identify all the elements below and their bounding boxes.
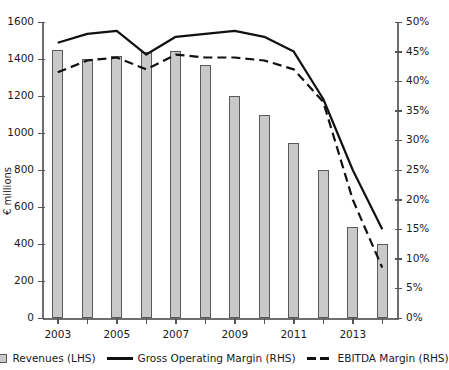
y-axis-right-tick-label: 10%: [406, 252, 429, 264]
revenue-bar: [259, 115, 270, 319]
y-axis-left-tick: [38, 281, 45, 283]
x-axis-tick-label: 2009: [213, 328, 257, 340]
x-axis-tick: [352, 318, 354, 324]
revenue-bar: [318, 170, 329, 318]
y-axis-right-tick-label: 20%: [406, 193, 429, 205]
x-axis-tick: [293, 318, 295, 324]
revenue-bar: [229, 96, 240, 318]
y-axis-right-tick: [395, 140, 402, 142]
y-axis-right-tick: [395, 110, 402, 112]
y-axis-right-tick-label: 50%: [406, 15, 429, 27]
x-axis-tick: [234, 318, 236, 324]
revenue-bar: [111, 56, 122, 318]
y-axis-left-tick-label: 200: [0, 274, 34, 286]
legend-label-gross-operating-margin: Gross Operating Margin (RHS): [138, 352, 296, 364]
y-axis-left-tick: [38, 244, 45, 246]
x-axis-tick: [87, 318, 89, 324]
x-axis-tick: [146, 318, 148, 324]
revenue-bar: [52, 50, 63, 318]
y-axis-left-tick: [38, 207, 45, 209]
legend-item-gross-operating-margin: Gross Operating Margin (RHS): [107, 352, 296, 364]
y-axis-right-tick-label: 15%: [406, 222, 429, 234]
x-axis-tick: [175, 318, 177, 324]
revenue-bar: [200, 65, 211, 318]
y-axis-left-tick: [38, 96, 45, 98]
y-axis-left-tick-label: 1400: [0, 52, 34, 64]
revenue-bar: [82, 59, 93, 318]
y-axis-right-tick: [395, 318, 402, 320]
y-axis-right-tick: [395, 229, 402, 231]
y-axis-left-tick-label: 600: [0, 200, 34, 212]
legend-item-ebitda-margin: EBITDA Margin (RHS): [307, 352, 449, 364]
x-axis-tick: [57, 318, 59, 324]
chart-legend: Revenues (LHS) Gross Operating Margin (R…: [0, 348, 430, 368]
gross-operating-margin-line: [58, 31, 383, 229]
y-axis-right-tick: [395, 258, 402, 260]
revenue-bar: [347, 227, 358, 318]
y-axis-left-tick-label: 1600: [0, 15, 34, 27]
y-axis-left-tick-label: 1000: [0, 126, 34, 138]
y-axis-right-tick-label: 25%: [406, 163, 429, 175]
y-axis-right-tick: [395, 22, 402, 24]
x-axis-tick-label: 2003: [36, 328, 80, 340]
y-axis-left-tick-label: 400: [0, 237, 34, 249]
y-axis-left-tick: [38, 59, 45, 61]
legend-label-ebitda-margin: EBITDA Margin (RHS): [338, 352, 449, 364]
y-axis-right-tick-label: 5%: [406, 281, 423, 293]
y-axis-right-tick-label: 30%: [406, 133, 429, 145]
y-axis-right-tick: [395, 170, 402, 172]
revenue-bar: [141, 52, 152, 318]
x-axis-tick-label: 2005: [95, 328, 139, 340]
legend-item-revenues: Revenues (LHS): [0, 352, 96, 364]
x-axis-tick: [382, 318, 384, 324]
x-axis-tick: [205, 318, 207, 324]
x-axis-line: [43, 318, 399, 320]
y-axis-left-tick: [38, 170, 45, 172]
legend-label-revenues: Revenues (LHS): [12, 352, 95, 364]
revenue-bar: [288, 143, 299, 318]
y-axis-left-tick: [38, 133, 45, 135]
y-axis-right-tick-label: 0%: [406, 311, 423, 323]
ebitda-margin-line: [58, 55, 383, 268]
y-axis-right-tick-label: 45%: [406, 45, 429, 57]
bar-swatch-icon: [0, 354, 7, 363]
x-axis-tick: [264, 318, 266, 324]
y-axis-right-tick-label: 35%: [406, 104, 429, 116]
y-axis-left-tick: [38, 22, 45, 24]
y-axis-right-tick-label: 40%: [406, 74, 429, 86]
x-axis-tick-label: 2011: [272, 328, 316, 340]
y-axis-right-tick: [395, 288, 402, 290]
y-axis-left-tick-label: 1200: [0, 89, 34, 101]
revenue-bar: [377, 244, 388, 318]
y-axis-left-tick: [38, 318, 45, 320]
y-axis-left-tick-label: 800: [0, 163, 34, 175]
x-axis-tick: [116, 318, 118, 324]
y-axis-right-tick: [395, 81, 402, 83]
y-axis-right-tick: [395, 199, 402, 201]
x-axis-tick: [323, 318, 325, 324]
revenue-bar: [170, 51, 181, 318]
solid-line-swatch-icon: [107, 357, 133, 360]
y-axis-right-tick: [395, 51, 402, 53]
x-axis-tick-label: 2013: [331, 328, 375, 340]
dashed-line-swatch-icon: [307, 357, 333, 360]
y-axis-left-tick-label: 0: [0, 311, 34, 323]
x-axis-tick-label: 2007: [154, 328, 198, 340]
